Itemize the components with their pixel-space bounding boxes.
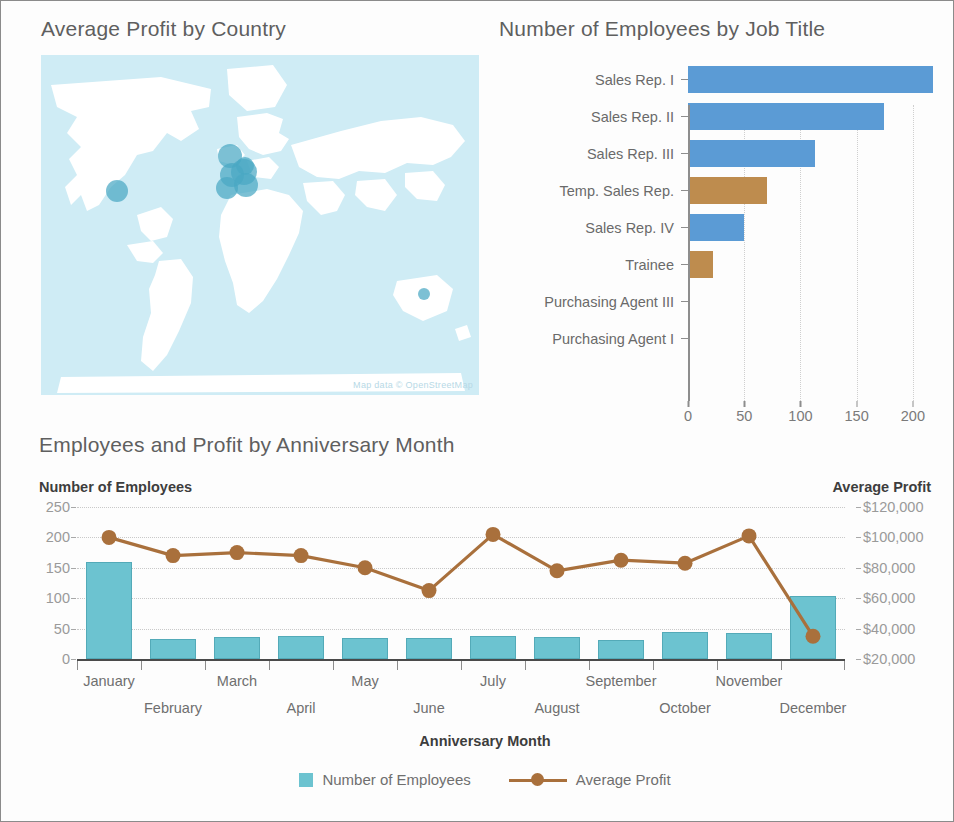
bar-category-label: Sales Rep. III bbox=[495, 146, 681, 162]
combo-x-label: December bbox=[780, 700, 847, 716]
profit-marker[interactable]: September: $85,000 bbox=[614, 553, 629, 568]
bar-fill[interactable] bbox=[688, 103, 884, 130]
profit-marker[interactable]: April: $88,000 bbox=[294, 548, 309, 563]
bar-fill[interactable] bbox=[688, 140, 815, 167]
combo-x-tick bbox=[333, 661, 334, 670]
combo-x-tick bbox=[141, 661, 142, 670]
combo-left-tick-mark bbox=[71, 568, 76, 569]
bar-track bbox=[688, 320, 941, 357]
bar-fill[interactable] bbox=[688, 177, 767, 204]
combo-x-tick bbox=[781, 661, 782, 670]
legend-label-profit: Average Profit bbox=[576, 771, 671, 788]
legend-item-employees[interactable]: Number of Employees bbox=[299, 771, 470, 788]
map-bubble[interactable] bbox=[234, 173, 258, 197]
combo-x-label: May bbox=[351, 673, 378, 689]
bar-axis-tick bbox=[681, 153, 688, 155]
bar-x-tick bbox=[744, 401, 746, 407]
job-title-bar-chart-panel: Number of Employees by Job Title Sales R… bbox=[495, 17, 941, 397]
profit-marker[interactable]: December: $35,000 bbox=[806, 629, 821, 644]
bar-fill[interactable] bbox=[688, 251, 713, 278]
bar-chart-title: Number of Employees by Job Title bbox=[499, 17, 825, 41]
combo-right-tick-mark bbox=[856, 629, 861, 630]
map-bubble[interactable] bbox=[418, 288, 430, 300]
legend-item-profit[interactable]: Average Profit bbox=[509, 771, 671, 788]
bar-chart-plot[interactable]: Sales Rep. ISales Rep. IISales Rep. IIIT… bbox=[495, 61, 941, 391]
profit-marker[interactable]: June: $65,000 bbox=[422, 583, 437, 598]
bar-row[interactable]: Purchasing Agent I bbox=[495, 320, 941, 357]
combo-x-axis-title: Anniversary Month bbox=[35, 733, 935, 749]
bar-x-tick bbox=[912, 401, 914, 407]
combo-left-tick-mark bbox=[71, 537, 76, 538]
combo-right-tick-label: $60,000 bbox=[863, 590, 915, 606]
profit-marker[interactable]: November: $101,000 bbox=[742, 528, 757, 543]
profit-marker[interactable]: August: $78,000 bbox=[550, 563, 565, 578]
combo-left-tick-label: 100 bbox=[46, 590, 70, 606]
combo-left-tick-label: 250 bbox=[46, 499, 70, 515]
dashboard-page: Average Profit by Country bbox=[0, 0, 954, 822]
bar-fill[interactable] bbox=[688, 66, 933, 93]
combo-x-tick bbox=[397, 661, 398, 670]
bar-track bbox=[688, 209, 941, 246]
profit-marker[interactable]: March: $90,000 bbox=[230, 545, 245, 560]
bar-x-tick-label: 200 bbox=[901, 408, 925, 424]
profit-marker[interactable]: February: $88,000 bbox=[166, 548, 181, 563]
profit-marker[interactable]: October: $83,000 bbox=[678, 556, 693, 571]
profit-markers: January: $100,000February: $88,000March:… bbox=[102, 527, 821, 644]
profit-marker[interactable]: July: $102,000 bbox=[486, 527, 501, 542]
bar-track bbox=[688, 98, 941, 135]
bar-category-label: Sales Rep. I bbox=[495, 72, 681, 88]
legend-square-icon bbox=[299, 773, 313, 787]
bar-x-tick-label: 150 bbox=[845, 408, 869, 424]
combo-left-tick-mark bbox=[71, 507, 76, 508]
bar-row[interactable]: Sales Rep. II bbox=[495, 98, 941, 135]
combo-right-tick-mark bbox=[856, 537, 861, 538]
combo-chart-title: Employees and Profit by Anniversary Mont… bbox=[39, 433, 455, 457]
combo-x-label: September bbox=[586, 673, 657, 689]
bar-row[interactable]: Sales Rep. III bbox=[495, 135, 941, 172]
combo-left-tick-label: 0 bbox=[62, 651, 70, 667]
bar-row[interactable]: Sales Rep. I bbox=[495, 61, 941, 98]
combo-right-tick-mark bbox=[856, 659, 861, 660]
combo-x-label: October bbox=[659, 700, 711, 716]
profit-marker[interactable]: January: $100,000 bbox=[102, 530, 117, 545]
bar-category-label: Purchasing Agent I bbox=[495, 331, 681, 347]
combo-x-label: February bbox=[144, 700, 202, 716]
combo-right-tick-mark bbox=[856, 507, 861, 508]
bar-track bbox=[688, 172, 941, 209]
bar-row[interactable]: Temp. Sales Rep. bbox=[495, 172, 941, 209]
profit-marker[interactable]: May: $80,000 bbox=[358, 560, 373, 575]
bar-track bbox=[688, 283, 941, 320]
bar-axis-tick bbox=[681, 338, 688, 340]
combo-x-tick bbox=[525, 661, 526, 670]
combo-x-tick bbox=[717, 661, 718, 670]
bar-row[interactable]: Sales Rep. IV bbox=[495, 209, 941, 246]
combo-x-label: January bbox=[83, 673, 135, 689]
combo-right-tick-mark bbox=[856, 568, 861, 569]
map-panel: Average Profit by Country bbox=[35, 17, 485, 397]
combo-right-tick-label: $100,000 bbox=[863, 529, 923, 545]
combo-right-tick-label: $80,000 bbox=[863, 560, 915, 576]
map-bubble[interactable] bbox=[106, 180, 128, 202]
bar-row[interactable]: Trainee bbox=[495, 246, 941, 283]
bar-axis-tick bbox=[681, 190, 688, 192]
combo-right-tick-label: $120,000 bbox=[863, 499, 923, 515]
combo-x-label: November bbox=[716, 673, 783, 689]
combo-chart-plot[interactable]: 050100150200250 $20,000$40,000$60,000$80… bbox=[77, 507, 845, 659]
combo-x-ticks bbox=[77, 661, 845, 671]
map-title: Average Profit by Country bbox=[41, 17, 286, 41]
anniversary-combo-chart-panel: Employees and Profit by Anniversary Mont… bbox=[35, 433, 935, 808]
map-attribution: Map data © OpenStreetMap bbox=[353, 380, 473, 390]
combo-x-labels: JanuaryFebruaryMarchAprilMayJuneJulyAugu… bbox=[77, 673, 845, 725]
bar-row[interactable]: Purchasing Agent III bbox=[495, 283, 941, 320]
bar-category-label: Purchasing Agent III bbox=[495, 294, 681, 310]
combo-left-tick-mark bbox=[71, 659, 76, 660]
bar-axis-tick bbox=[681, 227, 688, 229]
bar-category-label: Trainee bbox=[495, 257, 681, 273]
world-map[interactable]: Map data © OpenStreetMap bbox=[41, 55, 479, 395]
bar-track bbox=[688, 135, 941, 172]
bar-category-label: Sales Rep. II bbox=[495, 109, 681, 125]
bar-fill[interactable] bbox=[688, 214, 744, 241]
bar-x-tick bbox=[800, 401, 802, 407]
bar-x-axis: 050100150200 bbox=[688, 401, 941, 431]
combo-x-label: August bbox=[534, 700, 579, 716]
